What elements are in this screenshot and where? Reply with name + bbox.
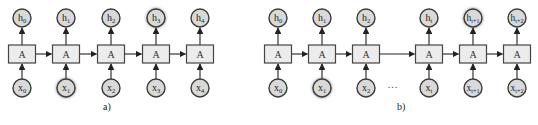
timestep-node: Ahtxt — [416, 9, 443, 97]
rnn-cell-label: A — [318, 49, 326, 60]
timestep-node: Ah1x1 — [53, 9, 80, 97]
timestep-node: Ah0x0 — [9, 9, 36, 97]
rnn-cell-label: A — [425, 49, 433, 60]
rnn-cell-label: A — [362, 49, 370, 60]
rnn-cell-label: A — [274, 49, 282, 60]
panel-b: Ah0x0Ah1x1Ah2x2AhtxtAht+1xt+1Aht+2xt+2..… — [265, 9, 531, 113]
rnn-cell-label: A — [62, 49, 70, 60]
timestep-node: Ah1x1 — [309, 9, 336, 97]
rnn-cell-label: A — [196, 49, 204, 60]
rnn-cell-label: A — [513, 49, 521, 60]
timestep-node: Ah2x2 — [98, 9, 125, 97]
timestep-node: Ah3x3 — [143, 9, 170, 97]
rnn-cell-label: A — [152, 49, 160, 60]
timestep-node: Aht+1xt+1 — [460, 9, 487, 97]
rnn-cell-label: A — [18, 49, 26, 60]
timestep-node: Ah0x0 — [265, 9, 292, 97]
rnn-cell-label: A — [107, 49, 115, 60]
timestep-node: Aht+2xt+2 — [504, 9, 531, 97]
rnn-unrolled-diagram: Ah0x0Ah1x1Ah2x2Ah3x3Ah4x4a)Ah0x0Ah1x1Ah2… — [0, 0, 538, 125]
timestep-node: Ah2x2 — [353, 9, 380, 97]
panel-caption: a) — [103, 101, 111, 113]
ellipsis: ... — [388, 79, 399, 90]
panel-a: Ah0x0Ah1x1Ah2x2Ah3x3Ah4x4a) — [9, 9, 214, 113]
panel-caption: b) — [397, 101, 405, 113]
timestep-node: Ah4x4 — [187, 9, 214, 97]
rnn-cell-label: A — [469, 49, 477, 60]
